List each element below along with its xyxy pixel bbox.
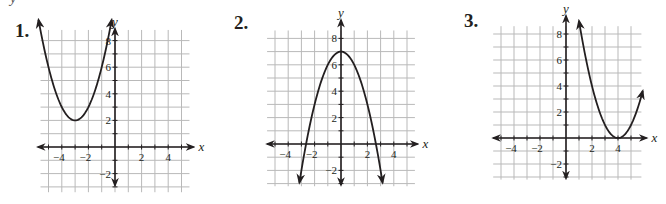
y-axis-label: y [336,5,344,20]
x-tick-label: 2 [139,151,145,163]
y-tick-label: 2 [332,112,338,124]
graph-3-panel: 3. −4−224−22468xy [444,0,666,204]
graph-2-plot: −4−224−22468xy [222,0,444,204]
y-tick-label: −2 [325,164,337,176]
graph-1-plot: −4−224−22468xy [0,0,222,204]
y-tick-label: −2 [99,168,111,180]
x-axis-label: x [197,139,204,154]
y-tick-label: 4 [332,85,338,97]
x-tick-label: 4 [615,142,621,154]
x-tick-label: 4 [165,151,171,163]
y-tick-label: 6 [332,59,338,71]
x-tick-label: 2 [365,148,371,160]
y-tick-label: 4 [106,88,112,100]
x-tick-label: −2 [531,142,543,154]
x-tick-label: −2 [306,148,318,160]
y-tick-label: −2 [550,158,562,170]
x-tick-label: −4 [505,142,517,154]
x-tick-label: 4 [391,148,397,160]
y-tick-label: 4 [557,80,563,92]
y-tick-label: 2 [557,106,563,118]
y-tick-label: 2 [106,114,112,126]
y-tick-label: 8 [557,28,563,40]
graph-1-panel: 1. −4−224−22468xy [0,0,222,204]
y-tick-label: 8 [332,32,338,44]
y-axis-label: y [561,1,569,16]
x-axis-label: x [651,130,658,145]
graph-3-plot: −4−224−22468xy [444,0,666,204]
x-axis-label: x [422,136,429,151]
x-tick-label: −2 [80,151,92,163]
x-tick-label: −4 [53,151,65,163]
y-tick-label: 6 [106,61,112,73]
parabola-curve [579,21,643,138]
graph-2-panel: 2. −4−224−22468xy [222,0,444,204]
x-tick-label: −4 [279,148,291,160]
x-tick-label: 2 [589,142,595,154]
y-tick-label: 6 [557,54,563,66]
